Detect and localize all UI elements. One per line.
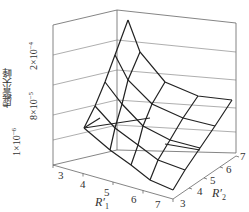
ztick-exponent: −4	[27, 42, 35, 49]
surface-mesh	[84, 20, 232, 190]
ytick-4: 4	[197, 185, 203, 197]
ytick-7: 7	[240, 150, 246, 162]
ztick-mantissa: 1×10	[11, 135, 22, 156]
ytick-3: 3	[180, 197, 186, 209]
ztick-mantissa: 2×10	[28, 49, 39, 70]
xtick-7: 7	[155, 198, 161, 210]
ytick-6: 6	[226, 163, 232, 175]
xaxis-title-main: R′	[95, 195, 105, 209]
axis-box	[53, 10, 236, 199]
xtick-3: 3	[58, 169, 64, 181]
ztick-2e-4: 2×10−4	[27, 42, 39, 70]
zaxis-title: 虚警尖峰	[2, 68, 16, 108]
xaxis-title-sub: 1	[105, 202, 109, 211]
yaxis-title-sub: 2	[222, 193, 226, 202]
xtick-6: 6	[131, 193, 137, 205]
ztick-8e-5: 8×10−5	[27, 92, 39, 120]
ztick-exponent: −5	[27, 92, 35, 99]
xtick-4: 4	[80, 178, 86, 190]
ztick-mantissa: 8×10	[28, 99, 39, 120]
yaxis-title-main: R′	[212, 186, 222, 200]
xaxis-title: R′1	[95, 195, 109, 211]
ztick-exponent: −6	[10, 128, 18, 135]
ytick-5: 5	[210, 174, 216, 186]
yaxis-title: R′2	[212, 186, 226, 202]
ztick-1e-6: 1×10−6	[10, 128, 22, 156]
